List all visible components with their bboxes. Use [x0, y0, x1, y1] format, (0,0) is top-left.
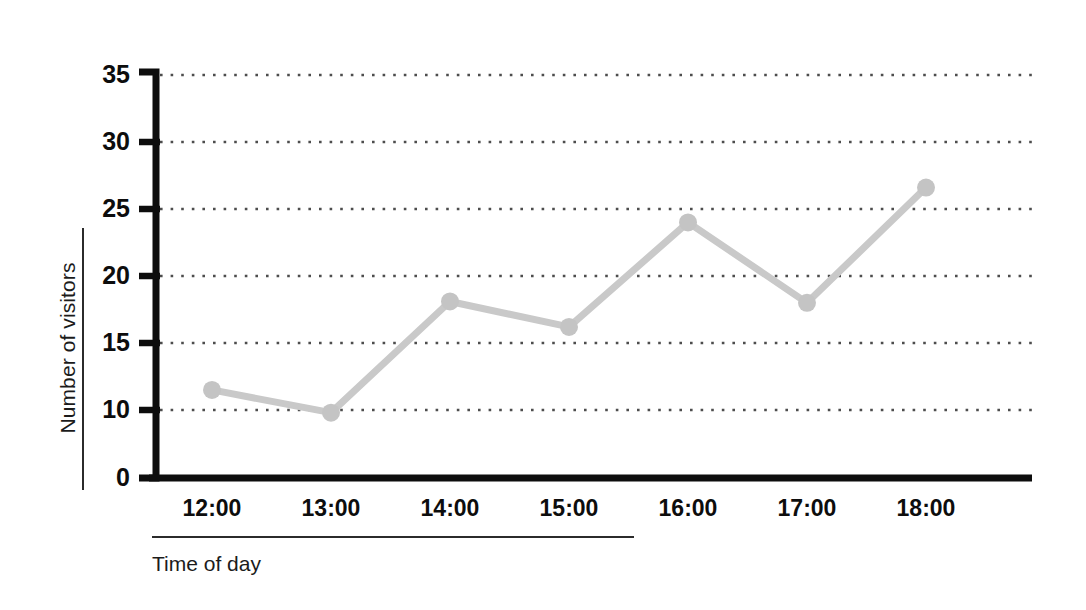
y-tick-label-15: 15 [68, 330, 130, 355]
y-tick-label-35: 35 [68, 62, 130, 87]
data-point-1400 [441, 292, 459, 310]
x-axis-title: Time of day [152, 552, 261, 576]
y-tick-label-10: 10 [68, 397, 130, 422]
x-tick-label-1800: 18:00 [866, 497, 986, 520]
x-axis-title-rule [152, 536, 634, 538]
data-point-1700 [798, 294, 816, 312]
y-tick-label-30: 30 [68, 129, 130, 154]
data-point-1200 [203, 381, 221, 399]
x-tick-label-1700: 17:00 [747, 497, 867, 520]
x-tick-label-1300: 13:00 [271, 497, 391, 520]
y-tick-label-20: 20 [68, 263, 130, 288]
y-tick-label-0: 0 [68, 465, 130, 490]
data-line-series [212, 188, 926, 413]
x-axis-title-group: Time of day [152, 536, 642, 596]
plot-area: 3530252015100 12:0013:0014:0015:0016:001… [0, 0, 1086, 610]
data-point-1600 [679, 213, 697, 231]
y-tick-label-25: 25 [68, 196, 130, 221]
data-point-1300 [322, 404, 340, 422]
x-tick-label-1200: 12:00 [152, 497, 272, 520]
data-point-markers [203, 179, 935, 422]
gridlines [160, 75, 1032, 410]
x-tick-label-1500: 15:00 [509, 497, 629, 520]
chart-screenshot: Number of visitors 3530252015100 12:0013… [0, 0, 1086, 610]
data-point-1800 [917, 179, 935, 197]
data-point-1500 [560, 318, 578, 336]
x-tick-label-1400: 14:00 [390, 497, 510, 520]
x-tick-label-1600: 16:00 [628, 497, 748, 520]
